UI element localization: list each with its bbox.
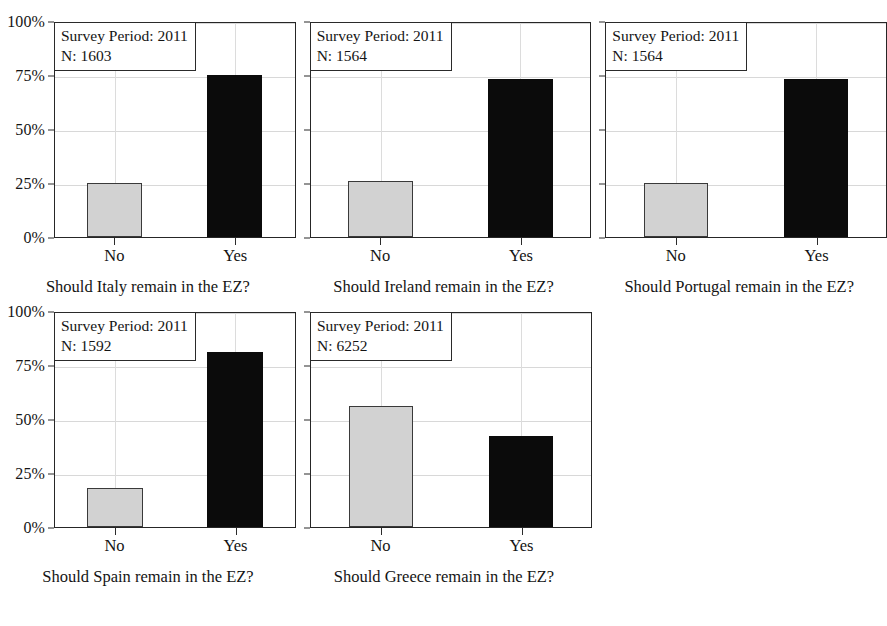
x-axis-tick-label: Yes — [223, 538, 247, 555]
x-axis-tick-label: Yes — [509, 538, 533, 555]
y-axis-tick-label: 50% — [15, 122, 45, 138]
x-axis-tick-label: Yes — [223, 248, 247, 265]
x-axis-tick-label: No — [370, 538, 390, 555]
x-axis: NoYes — [310, 238, 592, 278]
annotation-box: Survey Period: 2011N: 1603 — [54, 22, 196, 71]
x-axis-tick — [522, 528, 523, 535]
annotation-sample-size: N: 1564 — [317, 46, 444, 66]
x-axis-tick — [236, 528, 237, 535]
bar-no — [87, 183, 142, 237]
annotation-sample-size: N: 1603 — [61, 46, 188, 66]
x-axis-wrap: NoYes — [0, 528, 296, 568]
x-axis: NoYes — [310, 528, 592, 568]
figure-panel-grid: 0%25%50%75%100%Survey Period: 2011N: 160… — [0, 22, 887, 626]
annotation-box: Survey Period: 2011N: 1592 — [54, 312, 196, 361]
panel-caption: Should Portugal remain in the EZ? — [591, 278, 887, 296]
plot-box: Survey Period: 2011N: 1592 — [54, 312, 296, 528]
y-axis — [296, 22, 310, 238]
annotation-survey-period: Survey Period: 2011 — [317, 26, 444, 46]
chart-panel: Survey Period: 2011N: 1564NoYesShould Ir… — [296, 22, 592, 296]
chart-panel: 0%25%50%75%100%Survey Period: 2011N: 159… — [0, 312, 296, 586]
annotation-survey-period: Survey Period: 2011 — [61, 26, 188, 46]
x-axis-tick-label: No — [666, 248, 686, 265]
x-axis-tick-label: Yes — [509, 248, 533, 265]
y-axis: 0%25%50%75%100% — [0, 22, 54, 238]
y-axis-tick-label: 100% — [7, 14, 45, 30]
y-axis-tick-label: 75% — [15, 68, 45, 84]
x-axis: NoYes — [54, 238, 296, 278]
x-axis-wrap: NoYes — [591, 238, 887, 278]
annotation-survey-period: Survey Period: 2011 — [61, 316, 188, 336]
x-axis: NoYes — [605, 238, 887, 278]
panel-caption: Should Ireland remain in the EZ? — [296, 278, 592, 296]
y-axis — [296, 312, 310, 528]
x-axis-tick-label: No — [370, 248, 390, 265]
annotation-sample-size: N: 1564 — [612, 46, 739, 66]
panel-caption: Should Italy remain in the EZ? — [0, 278, 296, 296]
panel-plot-area: 0%25%50%75%100%Survey Period: 2011N: 160… — [0, 22, 296, 238]
panel-row-bottom: 0%25%50%75%100%Survey Period: 2011N: 159… — [0, 312, 887, 586]
x-axis-tick — [381, 528, 382, 535]
chart-panel: 0%25%50%75%100%Survey Period: 2011N: 160… — [0, 22, 296, 296]
x-axis-tick — [115, 528, 116, 535]
x-axis-tick — [521, 238, 522, 245]
annotation-box: Survey Period: 2011N: 1564 — [310, 22, 452, 71]
panel-caption: Should Spain remain in the EZ? — [0, 568, 296, 586]
x-axis-wrap: NoYes — [0, 238, 296, 278]
x-axis-tick — [235, 238, 236, 245]
x-axis: NoYes — [54, 528, 296, 568]
annotation-sample-size: N: 1592 — [61, 336, 188, 356]
plot-box: Survey Period: 2011N: 6252 — [310, 312, 592, 528]
x-axis-tick-label: Yes — [805, 248, 829, 265]
panel-plot-area: Survey Period: 2011N: 6252 — [296, 312, 592, 528]
bar-no — [87, 488, 142, 527]
plot-box: Survey Period: 2011N: 1603 — [54, 22, 296, 238]
y-axis-tick-label: 75% — [15, 358, 45, 374]
y-axis-tick-label: 25% — [15, 176, 45, 192]
bar-yes — [784, 79, 848, 237]
x-axis-spacer — [296, 528, 310, 568]
panel-caption: Should Greece remain in the EZ? — [296, 568, 592, 586]
y-axis-tick-label: 50% — [15, 412, 45, 428]
chart-panel: Survey Period: 2011N: 1564NoYesShould Po… — [591, 22, 887, 296]
bar-yes — [488, 79, 552, 237]
plot-box: Survey Period: 2011N: 1564 — [310, 22, 592, 238]
y-axis-tick-label: 100% — [7, 304, 45, 320]
y-axis: 0%25%50%75%100% — [0, 312, 54, 528]
x-axis-spacer — [0, 528, 54, 568]
plot-box: Survey Period: 2011N: 1564 — [605, 22, 887, 238]
panel-plot-area: Survey Period: 2011N: 1564 — [591, 22, 887, 238]
x-axis-spacer — [591, 238, 605, 278]
x-axis-tick — [114, 238, 115, 245]
panel-plot-area: Survey Period: 2011N: 1564 — [296, 22, 592, 238]
annotation-survey-period: Survey Period: 2011 — [317, 316, 444, 336]
x-axis-spacer — [0, 238, 54, 278]
panel-plot-area: 0%25%50%75%100%Survey Period: 2011N: 159… — [0, 312, 296, 528]
x-axis-tick-label: No — [104, 248, 124, 265]
x-axis-tick — [817, 238, 818, 245]
bar-no — [349, 406, 413, 527]
bar-yes — [489, 436, 553, 527]
x-axis-tick-label: No — [104, 538, 124, 555]
x-axis-spacer — [296, 238, 310, 278]
panel-row-top: 0%25%50%75%100%Survey Period: 2011N: 160… — [0, 22, 887, 296]
x-axis-wrap: NoYes — [296, 528, 592, 568]
annotation-box: Survey Period: 2011N: 6252 — [310, 312, 452, 361]
chart-panel: Survey Period: 2011N: 6252NoYesShould Gr… — [296, 312, 592, 586]
annotation-survey-period: Survey Period: 2011 — [612, 26, 739, 46]
annotation-box: Survey Period: 2011N: 1564 — [605, 22, 747, 71]
bar-yes — [207, 352, 262, 527]
bar-no — [644, 183, 708, 237]
y-axis-tick-label: 25% — [15, 466, 45, 482]
bar-no — [348, 181, 412, 237]
x-axis-tick — [380, 238, 381, 245]
annotation-sample-size: N: 6252 — [317, 336, 444, 356]
x-axis-tick — [676, 238, 677, 245]
bar-yes — [207, 75, 262, 237]
x-axis-wrap: NoYes — [296, 238, 592, 278]
y-axis — [591, 22, 605, 238]
